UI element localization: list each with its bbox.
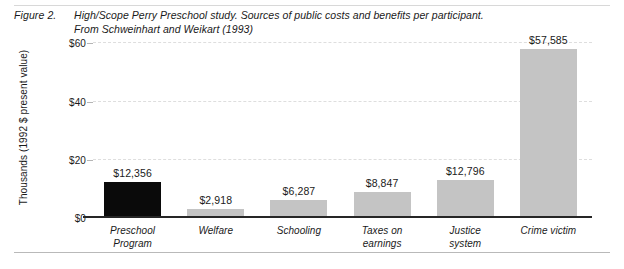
x-axis-label-line: Preschool xyxy=(91,224,174,237)
y-tick-label: $60 xyxy=(69,38,86,49)
bar xyxy=(354,192,411,218)
x-axis-label: Crime victim xyxy=(507,224,590,237)
x-axis-label: Welfare xyxy=(174,224,257,237)
bottom-divider xyxy=(14,252,610,253)
y-tick-label: $40 xyxy=(69,96,86,107)
bar-value-label: $8,847 xyxy=(366,177,399,189)
x-axis-label: Schooling xyxy=(257,224,340,237)
x-axis-label-line: Program xyxy=(91,237,174,250)
bar-value-label: $6,287 xyxy=(283,185,316,197)
y-tick-label: $20 xyxy=(69,155,86,166)
bar-item: $8,847 xyxy=(354,192,411,218)
x-axis-label-line: Schooling xyxy=(257,224,340,237)
bar-value-label: $57,585 xyxy=(529,34,568,46)
bar xyxy=(437,180,494,218)
bar xyxy=(520,49,577,218)
caption-line-2: From Schweinhart and Weikart (1993) xyxy=(74,23,484,37)
plot-area: $0$20$40$60 $12,356$2,918$6,287$8,847$12… xyxy=(93,42,592,218)
figure-container: Figure 2. High/Scope Perry Preschool stu… xyxy=(0,0,624,269)
bar-series: $12,356$2,918$6,287$8,847$12,796$57,585 xyxy=(93,42,592,218)
bar-item: $57,585 xyxy=(520,49,577,218)
figure-caption: Figure 2. High/Scope Perry Preschool stu… xyxy=(14,9,614,36)
figure-number: Figure 2. xyxy=(14,9,74,22)
bar-item: $12,356 xyxy=(104,182,161,218)
x-axis-line xyxy=(83,216,592,218)
caption-line-1: High/Scope Perry Preschool study. Source… xyxy=(74,9,484,23)
x-axis-label-line: Crime victim xyxy=(507,224,590,237)
x-axis-label-line: earnings xyxy=(341,237,424,250)
x-axis-label-line: Taxes on xyxy=(341,224,424,237)
x-axis-label-line: Justice xyxy=(424,224,507,237)
bar-value-label: $12,356 xyxy=(113,167,152,179)
figure-caption-text: High/Scope Perry Preschool study. Source… xyxy=(74,9,484,36)
x-axis-label: Taxes onearnings xyxy=(341,224,424,250)
bar-value-label: $2,918 xyxy=(199,194,232,206)
x-axis-label-line: Welfare xyxy=(174,224,257,237)
bar-value-label: $12,796 xyxy=(446,165,485,177)
x-axis-label: PreschoolProgram xyxy=(91,224,174,250)
y-tick-label: $0 xyxy=(75,213,86,224)
x-axis-label: Justicesystem xyxy=(424,224,507,250)
top-divider xyxy=(14,5,610,6)
bar-chart: Thousands (1992 $ present value) $0$20$4… xyxy=(0,38,624,253)
bar-item: $12,796 xyxy=(437,180,494,218)
x-axis-label-line: system xyxy=(424,237,507,250)
bar xyxy=(104,182,161,218)
y-axis-title: Thousands (1992 $ present value) xyxy=(18,43,29,213)
